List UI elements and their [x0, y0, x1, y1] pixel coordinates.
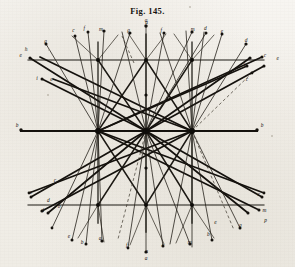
sec-ray-tn-c-2 — [146, 34, 166, 60]
sec-ray-bn-c-1 — [130, 205, 146, 245]
ray-label: i — [36, 75, 38, 81]
ray-label: m — [262, 207, 266, 213]
ray-label: d — [204, 25, 207, 31]
ray-label: h — [244, 62, 247, 68]
terminal-dot — [71, 239, 74, 242]
ray-label: c — [264, 52, 267, 58]
terminal-dot — [248, 56, 251, 59]
heavy-ray-lr-3 — [98, 131, 264, 193]
ray-label: g — [239, 222, 242, 228]
fine-ray-rh-5 — [192, 44, 246, 131]
ray-label: f — [84, 25, 87, 31]
terminal-dot — [251, 72, 254, 75]
sec-ray-bn-c-2 — [146, 205, 164, 244]
ray-label: e — [221, 28, 224, 34]
paper-speck — [48, 49, 50, 51]
terminal-dot — [41, 78, 44, 81]
hub-node-center — [143, 128, 149, 134]
terminal-dot — [258, 209, 261, 212]
axis-end-dot-right — [255, 128, 258, 131]
grid-node-top-right — [190, 58, 194, 62]
ray-label: d — [245, 37, 248, 43]
terminal-dot — [74, 35, 77, 38]
ray-label: b — [207, 231, 210, 237]
axis-end-dot-left — [19, 128, 22, 131]
fine-ray-lh-9 — [52, 131, 98, 228]
hub-node-right — [189, 128, 195, 134]
ray-label: e — [19, 52, 22, 58]
terminal-dot — [85, 243, 88, 246]
grid-node-bottom-left — [96, 203, 100, 207]
sec-ray-bn-l-1 — [78, 205, 98, 238]
heavy-ray-lr-2 — [98, 131, 259, 210]
axis-label-right-b: b — [261, 122, 264, 128]
grid-node-top-left — [96, 58, 100, 62]
ray-label: c — [72, 27, 75, 33]
grid-node-bottom-right — [190, 203, 194, 207]
axis-label-bottom-a: a — [145, 255, 148, 261]
ray-label: a — [99, 235, 102, 241]
fine-ray-lh-6 — [72, 131, 98, 240]
grid-node-mid-lower — [144, 166, 147, 169]
ray-label: a — [145, 248, 148, 254]
sec-ray-tn-l-1 — [72, 36, 98, 60]
ray-label: e — [68, 233, 71, 239]
heavy-ray-ul-4 — [53, 79, 192, 131]
terminal-dot — [30, 196, 33, 199]
fine-ray-rh-3 — [192, 32, 204, 131]
ray-label: p — [263, 217, 267, 223]
figure-diagram: b b a a ehgcfmgfamdedcehcieceddbebafacmb… — [0, 0, 295, 267]
ray-label: g — [44, 38, 47, 44]
ray-label: g — [127, 27, 130, 33]
terminal-dot — [211, 239, 214, 242]
terminal-dot — [47, 212, 50, 215]
terminal-dot — [28, 56, 31, 59]
terminal-dot — [205, 32, 208, 35]
paper-speck — [271, 135, 273, 137]
ray-label: h — [25, 46, 28, 52]
terminal-dot — [263, 65, 266, 68]
paper-speck — [189, 6, 191, 8]
ray-label: m — [188, 239, 192, 245]
terminal-dot — [87, 31, 90, 34]
ray-label: b — [58, 203, 61, 209]
ray-label: b — [81, 239, 84, 245]
ray-label: e — [276, 55, 279, 61]
ray-label: d — [41, 207, 44, 213]
fine-ray-ch-4 — [146, 32, 192, 131]
terminal-dot — [163, 32, 166, 35]
paper-speck — [141, 152, 143, 154]
sec-ray-bn-r-1 — [176, 205, 192, 243]
sec-ray-tn-l-2 — [98, 35, 118, 60]
grid-node-mid-upper — [144, 93, 147, 96]
ray-label: d — [47, 197, 50, 203]
ray-label: e — [214, 219, 217, 225]
heavy-ray-ul-2 — [42, 79, 146, 131]
terminal-dot — [263, 192, 266, 195]
axis-label-left-b: b — [16, 122, 19, 128]
ray-label: m — [99, 26, 103, 32]
ray-label: c — [162, 242, 165, 248]
heavy-ray-ll-3 — [29, 131, 192, 193]
terminal-dot — [247, 212, 250, 215]
paper-speck — [47, 94, 49, 96]
grid-node-bottom-center — [144, 203, 148, 207]
terminal-dot — [261, 196, 264, 199]
principal-axis — [19, 128, 258, 131]
hub-node-left — [95, 128, 101, 134]
ray-label: a — [145, 19, 148, 25]
sec-ray-bn-r-2 — [192, 205, 214, 238]
terminal-dot — [51, 227, 54, 230]
ray-label: m — [191, 26, 195, 32]
grid-node-top-center — [144, 58, 148, 62]
